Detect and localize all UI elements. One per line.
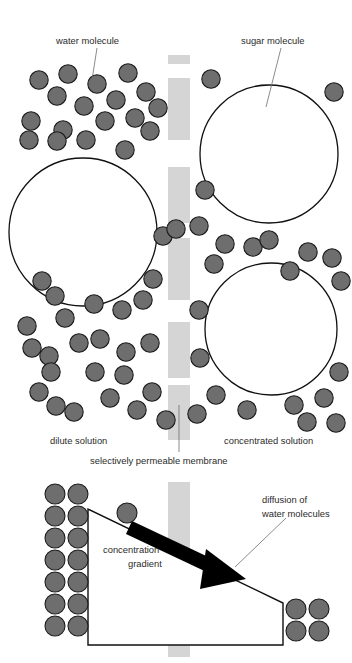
concentrated-molecule-stack: [286, 599, 329, 641]
sugar-molecule-label: sugar molecule: [241, 35, 305, 46]
water-molecule: [167, 220, 185, 238]
water-molecule: [117, 343, 135, 361]
diffusion-label-line2: water molecules: [261, 508, 330, 519]
water-molecule: [115, 366, 133, 384]
water-molecule: [128, 401, 146, 419]
water-molecule: [157, 411, 175, 429]
water-molecule: [141, 334, 159, 352]
bottom-panel: concentration gradient diffusion of wate…: [45, 482, 330, 657]
dilute-solution-label: dilute solution: [50, 435, 107, 446]
water-molecule: [42, 363, 60, 381]
water-molecule: [238, 401, 256, 419]
membrane-segment: [168, 322, 190, 378]
water-molecule: [45, 506, 65, 526]
water-molecule: [260, 231, 278, 249]
water-molecule: [70, 334, 88, 352]
sugar-molecule-dilute: [9, 158, 157, 306]
water-molecule: [86, 363, 104, 381]
water-molecule: [68, 506, 88, 526]
water-molecule: [107, 91, 125, 109]
water-molecule: [23, 339, 41, 357]
water-molecule: [196, 181, 214, 199]
water-molecule: [88, 75, 106, 93]
water-molecule: [65, 403, 83, 421]
selectively-permeable-membrane-top: [168, 55, 190, 440]
water-molecule: [143, 383, 161, 401]
water-molecule: [45, 594, 65, 614]
water-molecule: [286, 599, 306, 619]
water-molecule: [40, 347, 58, 365]
sugar-molecule-concentrated-upper: [200, 85, 338, 223]
water-molecule: [85, 295, 103, 313]
water-molecule: [68, 594, 88, 614]
water-molecule: [33, 272, 51, 290]
water-molecule: [91, 330, 109, 348]
membrane-segment: [168, 55, 190, 64]
water-molecule: [330, 363, 348, 381]
water-molecule: [117, 503, 137, 523]
water-molecule: [20, 131, 38, 149]
water-molecule: [96, 112, 114, 130]
water-molecule: [68, 550, 88, 570]
water-molecule: [188, 405, 206, 423]
water-molecule: [202, 70, 220, 88]
water-molecule: [119, 64, 137, 82]
water-molecule: [46, 287, 64, 305]
water-molecule: [68, 528, 88, 548]
water-molecule: [299, 243, 317, 261]
water-molecule: [59, 65, 77, 83]
water-molecule: [126, 109, 144, 127]
water-molecule: [45, 528, 65, 548]
water-molecule: [315, 389, 333, 407]
water-molecule: [141, 122, 159, 140]
water-molecule: [298, 413, 316, 431]
water-molecule: [30, 383, 48, 401]
water-molecule-label: water molecule: [55, 35, 119, 46]
water-molecule: [56, 309, 74, 327]
water-molecule: [137, 83, 155, 101]
water-molecule: [116, 141, 134, 159]
water-molecule: [68, 616, 88, 636]
water-molecule: [48, 87, 66, 105]
concentrated-solution-label: concentrated solution: [224, 435, 313, 446]
top-panel: water molecule sugar molecule dilute sol…: [9, 35, 350, 466]
water-molecule: [45, 484, 65, 504]
water-molecule: [68, 572, 88, 592]
water-molecule: [285, 396, 303, 414]
water-molecule: [190, 301, 208, 319]
water-molecule: [30, 71, 48, 89]
membrane-segment: [168, 238, 190, 300]
water-molecule: [48, 132, 66, 150]
water-molecule: [327, 414, 345, 432]
water-molecule: [47, 397, 65, 415]
water-molecule: [144, 270, 162, 288]
water-molecule: [190, 217, 208, 235]
water-molecule: [332, 272, 350, 290]
water-molecule: [216, 235, 234, 253]
water-molecule: [134, 291, 152, 309]
water-molecule: [309, 599, 329, 619]
water-molecule: [191, 349, 209, 367]
water-molecule: [75, 97, 93, 115]
water-molecule: [281, 262, 299, 280]
diffusion-label-line1: diffusion of: [262, 494, 308, 505]
water-molecule: [45, 572, 65, 592]
water-molecule: [205, 255, 223, 273]
water-molecule: [325, 83, 343, 101]
sugar-molecule-concentrated-lower: [205, 263, 337, 395]
concentration-gradient-label-line1: concentration: [103, 544, 159, 555]
water-molecule: [323, 249, 341, 267]
water-molecule: [18, 317, 36, 335]
membrane-label: selectively permeable membrane: [90, 455, 228, 466]
water-molecule: [45, 550, 65, 570]
water-molecule: [207, 386, 225, 404]
water-molecule: [286, 621, 306, 641]
water-molecule: [101, 389, 119, 407]
membrane-segment: [168, 167, 190, 223]
water-molecule: [77, 131, 95, 149]
concentration-gradient-label-line2: gradient: [128, 558, 162, 569]
membrane-segment: [168, 78, 190, 140]
figure-canvas: water molecule sugar molecule dilute sol…: [0, 0, 352, 663]
water-molecule: [22, 112, 40, 130]
osmosis-diagram: water molecule sugar molecule dilute sol…: [0, 0, 352, 663]
